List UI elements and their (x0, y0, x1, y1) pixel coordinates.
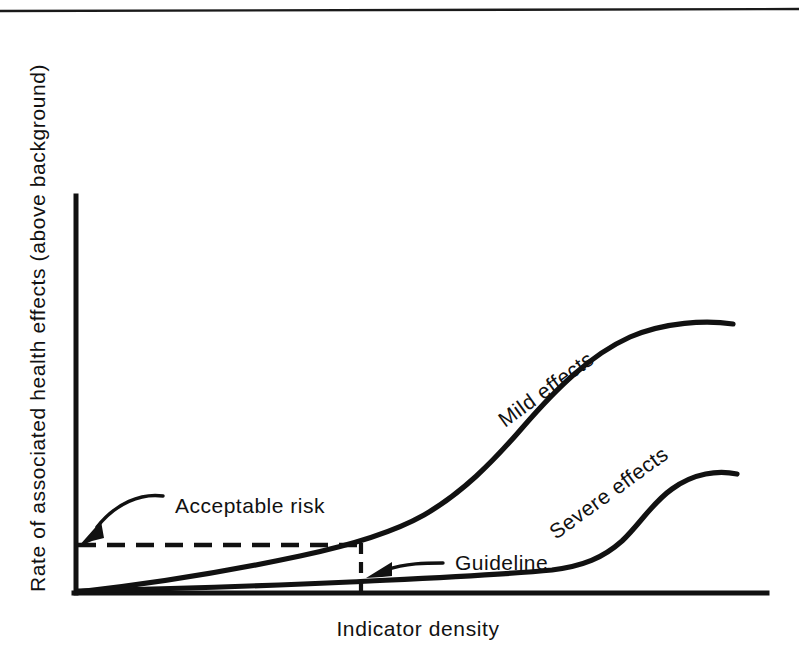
figure-container: Rate of associated health effects (above… (0, 0, 799, 670)
acceptable-risk-label: Acceptable risk (175, 494, 325, 517)
health-effects-chart: Rate of associated health effects (above… (0, 0, 799, 670)
acceptable-risk-arrow-shaft (97, 495, 163, 527)
mild-effects-curve-label: Mild effects (494, 347, 598, 431)
x-axis-title: Indicator density (336, 617, 499, 640)
page-top-rule (0, 9, 799, 11)
guideline-label: Guideline (455, 551, 548, 574)
guideline-arrow-shaft (386, 563, 443, 570)
y-axis-title: Rate of associated health effects (above… (26, 64, 49, 592)
guideline-arrow-head (366, 562, 392, 578)
series-curve-mild-effects (77, 322, 733, 592)
severe-effects-curve-label: Severe effects (545, 442, 672, 543)
series-curve-severe-effects (78, 472, 737, 591)
